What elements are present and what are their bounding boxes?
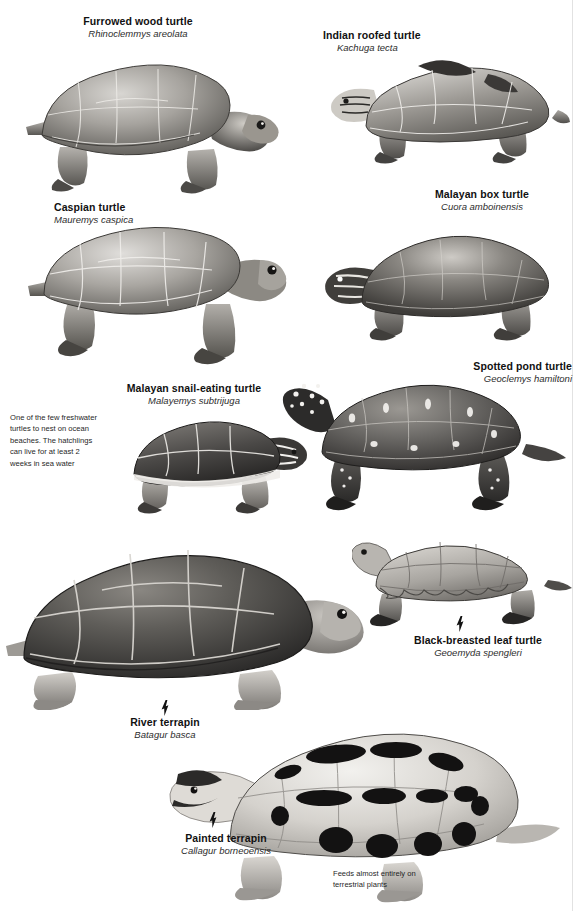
latin-name-furrowed-wood-turtle: Rhinoclemmys areolata xyxy=(28,28,248,39)
common-name-furrowed-wood-turtle: Furrowed wood turtle xyxy=(28,15,248,27)
label-malayan-box-turtle: Malayan box turtle Cuora amboinensis xyxy=(392,188,572,213)
illustration-river-terrapin xyxy=(2,528,366,710)
label-black-breasted-leaf-turtle: Black-breasted leaf turtle Geoemyda spen… xyxy=(380,634,576,659)
leader-arrow-black-breasted-leaf-turtle xyxy=(455,616,465,632)
common-name-malayan-snail-eating-turtle: Malayan snail-eating turtle xyxy=(94,382,294,394)
common-name-malayan-box-turtle: Malayan box turtle xyxy=(392,188,572,200)
common-name-indian-roofed-turtle: Indian roofed turtle xyxy=(323,29,523,41)
caption-sea-water: One of the few freshwater turtles to nes… xyxy=(10,412,102,469)
illustration-malayan-snail-eating-turtle xyxy=(112,410,316,516)
latin-name-black-breasted-leaf-turtle: Geoemyda spengleri xyxy=(380,647,576,658)
common-name-spotted-pond-turtle: Spotted pond turtle xyxy=(372,360,572,372)
latin-name-painted-terrapin: Callagur borneoensis xyxy=(146,845,306,856)
latin-name-malayan-snail-eating-turtle: Malayemys subtrijuga xyxy=(94,395,294,406)
illustration-malayan-box-turtle xyxy=(318,222,574,350)
caption-terrestrial-plants: Feeds almost entirely on terrestrial pla… xyxy=(333,868,443,891)
common-name-river-terrapin: River terrapin xyxy=(100,716,230,728)
illustration-furrowed-wood-turtle xyxy=(18,55,290,195)
illustration-plate-page: Furrowed wood turtle Rhinoclemmys areola… xyxy=(0,0,578,911)
leader-arrow-river-terrapin xyxy=(160,700,170,716)
latin-name-river-terrapin: Batagur basca xyxy=(100,729,230,740)
latin-name-malayan-box-turtle: Cuora amboinensis xyxy=(392,201,572,212)
common-name-caspian-turtle: Caspian turtle xyxy=(54,201,224,213)
common-name-painted-terrapin: Painted terrapin xyxy=(146,832,306,844)
label-painted-terrapin: Painted terrapin Callagur borneoensis xyxy=(146,832,306,857)
page-margin-rule xyxy=(572,0,573,911)
label-malayan-snail-eating-turtle: Malayan snail-eating turtle Malayemys su… xyxy=(94,382,294,407)
illustration-spotted-pond-turtle xyxy=(282,372,572,514)
common-name-black-breasted-leaf-turtle: Black-breasted leaf turtle xyxy=(380,634,576,646)
label-spotted-pond-turtle: Spotted pond turtle Geoclemys hamiltoni xyxy=(372,360,572,385)
label-caspian-turtle: Caspian turtle Mauremys caspica xyxy=(54,201,224,226)
latin-name-caspian-turtle: Mauremys caspica xyxy=(54,214,224,225)
latin-name-indian-roofed-turtle: Kachuga tecta xyxy=(323,42,523,53)
label-furrowed-wood-turtle: Furrowed wood turtle Rhinoclemmys areola… xyxy=(28,15,248,40)
latin-name-spotted-pond-turtle: Geoclemys hamiltoni xyxy=(372,373,572,384)
illustration-caspian-turtle xyxy=(22,220,288,380)
leader-arrow-painted-terrapin xyxy=(208,812,218,828)
illustration-indian-roofed-turtle xyxy=(322,56,572,174)
label-river-terrapin: River terrapin Batagur basca xyxy=(100,716,230,741)
label-indian-roofed-turtle: Indian roofed turtle Kachuga tecta xyxy=(323,29,523,54)
